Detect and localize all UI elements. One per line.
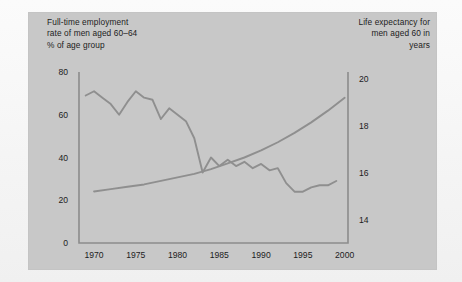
x-tick-label: 1990 [252, 250, 271, 260]
life-expectancy-line [94, 98, 345, 192]
data-series [86, 91, 345, 191]
chart-figure: Full-time employment rate of men aged 60… [0, 0, 462, 282]
left-tick-label: 80 [58, 67, 68, 77]
left-tick-label: 40 [58, 153, 68, 163]
x-tick-label: 1980 [168, 250, 187, 260]
x-tick-label: 1970 [84, 250, 103, 260]
x-tick-label: 1985 [210, 250, 229, 260]
left-tick-label: 60 [58, 110, 68, 120]
x-tick-label: 2000 [335, 250, 354, 260]
left-tick-label: 20 [58, 195, 68, 205]
right-tick-label: 16 [359, 168, 369, 178]
right-tick-label: 14 [359, 215, 369, 225]
axis-lines [79, 72, 348, 243]
x-tick-label: 1975 [126, 250, 145, 260]
employment-rate-line [86, 91, 337, 191]
left-axis-ticks: 020406080 [58, 67, 68, 248]
x-axis-ticks: 1970197519801985199019952000 [84, 250, 354, 260]
left-tick-label: 0 [63, 238, 68, 248]
x-tick-label: 1995 [293, 250, 312, 260]
right-tick-label: 20 [359, 74, 369, 84]
chart-plot: 020406080 14161820 197019751980198519901… [0, 0, 462, 282]
right-tick-label: 18 [359, 121, 369, 131]
right-axis-ticks: 14161820 [359, 74, 369, 225]
axis-frame [79, 72, 348, 243]
